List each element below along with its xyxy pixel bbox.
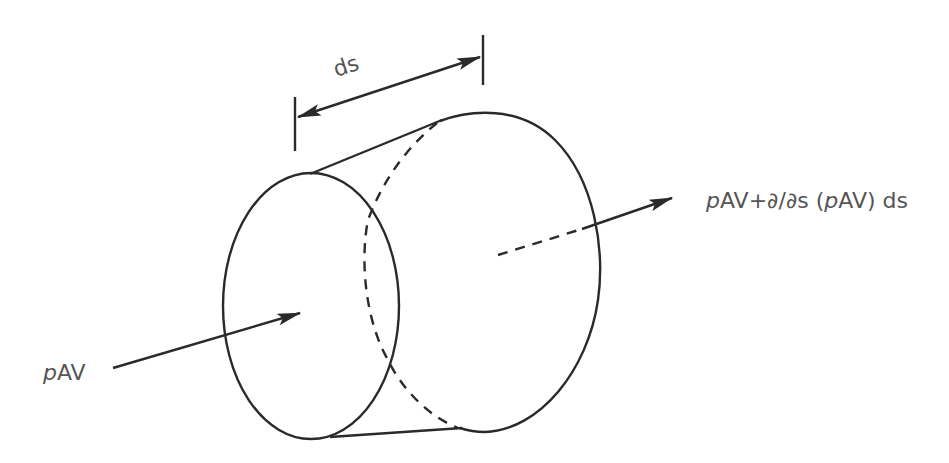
tube-top-edge [310,120,442,174]
stream-tube-diagram [0,0,949,463]
tube-bottom-edge [330,428,462,437]
density-symbol: p [824,188,838,213]
outflow-label: pAV+∂/∂s (pAV) ds [706,188,908,213]
outflow-label-end: AV) ds [838,188,908,213]
inflow-arrow [113,313,300,368]
outflow-label-mid: AV+∂/∂s ( [720,188,824,213]
outlet-face-hidden [364,123,458,428]
inlet-face [223,173,399,439]
inflow-label-rest: AV [57,360,86,385]
inflow-label: pAV [43,360,86,385]
outlet-face-visible [440,113,600,432]
outflow-arrow [582,198,672,229]
density-symbol: p [43,360,57,385]
density-symbol: p [706,188,720,213]
outflow-hidden-segment [498,229,582,255]
dimension-arrow [298,57,480,117]
